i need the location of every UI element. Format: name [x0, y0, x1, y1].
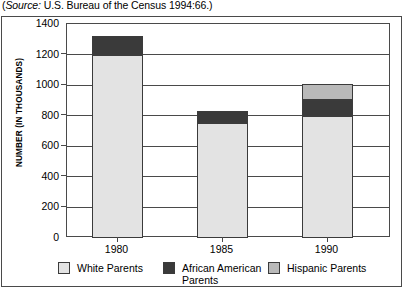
legend-label: Hispanic Parents [287, 262, 366, 274]
source-caption: (Source: U.S. Bureau of the Census 1994:… [2, 0, 212, 12]
legend-item: White Parents [58, 262, 143, 274]
y-axis-tick-label: 0 [13, 232, 59, 242]
y-axis-tick-label: 400 [13, 171, 59, 181]
legend-item: African American Parents [163, 262, 261, 286]
x-axis-tick-label: 1980 [87, 243, 147, 255]
x-axis-tick-mark [117, 237, 118, 242]
bar-segment [302, 116, 353, 238]
bar-1980 [92, 24, 143, 238]
x-axis-tick-mark [327, 237, 328, 242]
legend-swatch [163, 262, 175, 274]
source-label: Source: [5, 0, 41, 11]
bar-segment [302, 84, 353, 101]
x-axis-tick-mark [222, 237, 223, 242]
figure-container: (Source: U.S. Bureau of the Census 1994:… [0, 0, 405, 290]
plot-area [66, 23, 390, 237]
legend-label: African American Parents [182, 262, 261, 286]
x-axis-tick-label: 1985 [192, 243, 252, 255]
y-axis-tick-label: 200 [13, 201, 59, 211]
y-axis-tick-label: 1400 [13, 18, 59, 28]
y-axis-tick-label: 1200 [13, 49, 59, 59]
legend-swatch [58, 262, 70, 274]
legend-item: Hispanic Parents [268, 262, 366, 274]
bar-segment [197, 111, 248, 123]
y-axis-tick-label: 600 [13, 140, 59, 150]
legend-swatch [268, 262, 280, 274]
y-axis-tick-label: 800 [13, 110, 59, 120]
bar-segment [197, 123, 248, 238]
bar-segment [92, 36, 143, 54]
bar-segment [302, 100, 353, 115]
y-axis-tick-label: 1000 [13, 79, 59, 89]
bar-1990 [302, 24, 353, 238]
bar-1985 [197, 24, 248, 238]
legend-label: White Parents [77, 262, 143, 274]
chart-legend: White ParentsAfrican American ParentsHis… [0, 258, 405, 288]
bar-segment [92, 55, 143, 238]
source-text: U.S. Bureau of the Census 1994:66.) [41, 0, 213, 11]
x-axis-tick-label: 1990 [297, 243, 357, 255]
